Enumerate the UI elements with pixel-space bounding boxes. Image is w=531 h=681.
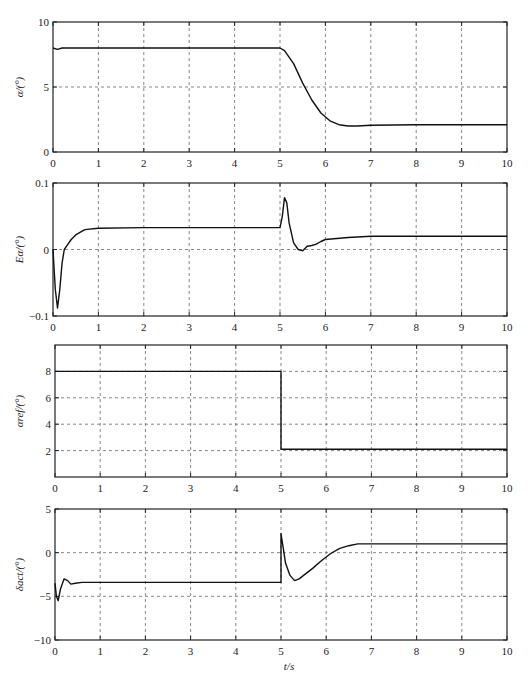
- x-tick-label: 7: [368, 321, 374, 333]
- x-tick-label: 6: [323, 645, 329, 657]
- x-tick-label: 10: [502, 157, 514, 169]
- x-tick-label: 4: [232, 157, 238, 169]
- series-line-alpha_ref: [55, 371, 507, 449]
- x-tick-label: 8: [413, 157, 419, 169]
- y-tick-label: −5: [39, 590, 51, 602]
- x-tick-label: 3: [186, 321, 192, 333]
- x-tick-label: 6: [323, 482, 329, 494]
- x-tick-label: 3: [186, 157, 192, 169]
- x-tick-label: 2: [141, 321, 147, 333]
- x-tick-label: 6: [323, 321, 329, 333]
- x-tick-label: 4: [233, 482, 239, 494]
- x-tick-label: 1: [97, 482, 103, 494]
- subplot-2: 012345678910−0.100.1Eα/(°): [13, 177, 513, 333]
- x-tick-label: 7: [369, 645, 375, 657]
- subplot-3: 0123456789102468αref/(°): [13, 345, 513, 494]
- y-tick-label: 0: [44, 244, 50, 256]
- x-tick-label: 8: [414, 482, 420, 494]
- x-tick-label: 4: [232, 321, 238, 333]
- x-tick-label: 2: [143, 645, 149, 657]
- x-tick-label: 1: [96, 157, 102, 169]
- chart-figure: 0123456789100510α/(°)012345678910−0.100.…: [0, 0, 531, 681]
- y-axis-label: α/(°): [13, 76, 26, 97]
- x-tick-label: 2: [141, 157, 147, 169]
- x-tick-label: 10: [502, 482, 514, 494]
- x-tick-label: 10: [502, 321, 514, 333]
- x-tick-label: 9: [459, 482, 465, 494]
- x-tick-label: 9: [459, 645, 465, 657]
- x-tick-label: 5: [277, 157, 283, 169]
- y-tick-label: 5: [46, 503, 52, 515]
- subplot-1: 0123456789100510α/(°): [13, 16, 513, 169]
- x-tick-label: 9: [459, 157, 465, 169]
- y-tick-label: 0: [46, 547, 52, 559]
- y-tick-label: 0: [44, 146, 50, 158]
- y-tick-label: 0.1: [35, 177, 49, 189]
- series-line-delta_act: [55, 534, 507, 601]
- x-axis-label: t/s: [284, 660, 294, 672]
- x-tick-label: 1: [97, 645, 103, 657]
- x-tick-label: 8: [413, 321, 419, 333]
- x-tick-label: 0: [52, 482, 58, 494]
- x-tick-label: 8: [414, 645, 420, 657]
- y-axis-label: Eα/(°): [13, 236, 26, 265]
- x-tick-label: 7: [369, 482, 375, 494]
- y-tick-label: 6: [46, 392, 52, 404]
- x-tick-label: 5: [278, 482, 284, 494]
- y-tick-label: 4: [46, 418, 52, 430]
- x-tick-label: 0: [50, 321, 56, 333]
- x-tick-label: 0: [52, 645, 58, 657]
- x-tick-label: 2: [143, 482, 149, 494]
- y-tick-label: −10: [34, 634, 52, 646]
- x-tick-label: 3: [188, 482, 194, 494]
- x-tick-label: 1: [96, 321, 102, 333]
- y-tick-label: 8: [46, 365, 52, 377]
- y-axis-label: δact/(°): [13, 558, 26, 592]
- x-tick-label: 7: [368, 157, 374, 169]
- x-tick-label: 10: [502, 645, 514, 657]
- y-tick-label: 5: [44, 81, 50, 93]
- subplot-4: 012345678910−10−505δact/(°)t/s: [13, 503, 513, 672]
- x-tick-label: 5: [278, 645, 284, 657]
- x-tick-label: 9: [459, 321, 465, 333]
- x-tick-label: 3: [188, 645, 194, 657]
- x-tick-label: 0: [50, 157, 56, 169]
- y-tick-label: 10: [38, 16, 50, 28]
- x-tick-label: 5: [277, 321, 283, 333]
- y-tick-label: −0.1: [29, 310, 49, 322]
- y-axis-label: αref/(°): [13, 394, 26, 427]
- x-tick-label: 4: [233, 645, 239, 657]
- y-tick-label: 2: [46, 445, 52, 457]
- x-tick-label: 6: [323, 157, 329, 169]
